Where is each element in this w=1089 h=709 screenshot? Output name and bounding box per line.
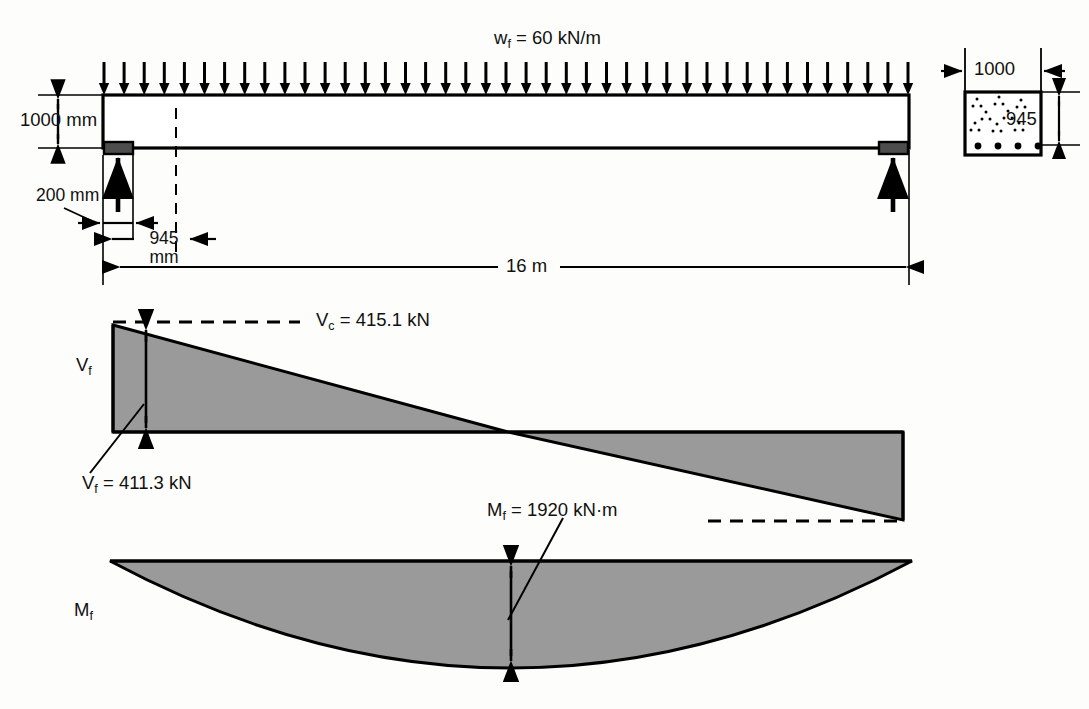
vc-label: Vc = 415.1 kN [316, 310, 430, 333]
beam-depth-label: 1000 mm [20, 110, 97, 130]
section-width-label: 1000 [974, 59, 1015, 79]
shear-force-diagram [90, 322, 903, 521]
offset-label: 945 mm [137, 229, 191, 267]
load-label: wf = 60 kN/m [494, 28, 601, 51]
figure-canvas: wf = 60 kN/m 1000 mm 200 mm 945 mm 16 m … [0, 0, 1089, 709]
section-depth-label: 945 [1006, 109, 1037, 129]
distributed-load-arrows [99, 62, 913, 95]
bending-moment-diagram [110, 518, 912, 668]
bearing-width-label: 200 mm [36, 186, 99, 205]
bearing-pad-right [879, 142, 908, 154]
shear-positive-area [113, 325, 508, 432]
span-label: 16 m [506, 256, 547, 276]
shear-axis-label: Vf [76, 355, 92, 378]
beam-body [103, 95, 909, 148]
mf-value-label: Mf = 1920 kN·m [487, 500, 617, 523]
moment-axis-label: Mf [74, 600, 93, 623]
load-label-value: = 60 kN/m [511, 27, 601, 48]
diagram-vector-layer [0, 0, 1089, 709]
bearing-pad-left [104, 142, 133, 154]
vf-value-label: Vf = 411.3 kN [82, 473, 192, 496]
section-depth-dimension [1041, 92, 1080, 145]
load-label-symbol: w [494, 27, 507, 48]
